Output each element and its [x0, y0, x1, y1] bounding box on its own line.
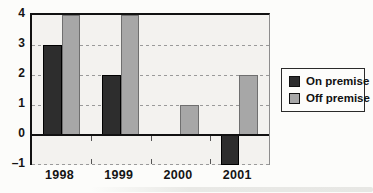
legend-swatch-on-premise — [289, 76, 300, 87]
y-axis-label-3: 3 — [0, 35, 25, 51]
legend-label: Off premise — [306, 92, 370, 105]
category-boundary-tick — [210, 159, 211, 164]
plot-area — [30, 13, 270, 165]
category-boundary-tick — [151, 136, 152, 141]
x-axis-label-1999: 1999 — [89, 168, 149, 183]
legend-swatch-off-premise — [289, 93, 300, 104]
bar-off-premise-2000 — [180, 105, 199, 135]
legend-label: On premise — [306, 75, 369, 88]
category-boundary-tick — [91, 159, 92, 164]
bar-on-premise-1998 — [43, 45, 62, 135]
bar-off-premise-1999 — [121, 15, 140, 135]
y-axis-label-4: 4 — [0, 5, 25, 21]
legend-item-on-premise: On premise — [289, 75, 357, 88]
scan-artifact — [90, 187, 373, 192]
y-axis-label-2: 2 — [0, 65, 25, 81]
x-axis-label-1998: 1998 — [30, 168, 90, 183]
legend: On premiseOff premise — [281, 68, 365, 112]
bar-off-premise-2001 — [239, 75, 258, 135]
x-axis-label-2000: 2000 — [148, 168, 208, 183]
category-boundary-tick — [210, 136, 211, 141]
y-axis-label-0: 0 — [0, 125, 25, 141]
y-axis-label-1: 1 — [0, 95, 25, 111]
legend-item-off-premise: Off premise — [289, 92, 357, 105]
bar-on-premise-1999 — [102, 75, 121, 135]
bar-on-premise-2001 — [221, 135, 240, 165]
x-axis-label-2001: 2001 — [207, 168, 267, 183]
bar-chart-figure: 43210–1 1998199920002001 On premiseOff p… — [0, 0, 373, 193]
y-axis-label--1: –1 — [0, 155, 25, 171]
category-boundary-tick — [91, 136, 92, 141]
zero-baseline — [32, 134, 269, 136]
category-boundary-tick — [151, 159, 152, 164]
bar-off-premise-1998 — [62, 15, 81, 135]
